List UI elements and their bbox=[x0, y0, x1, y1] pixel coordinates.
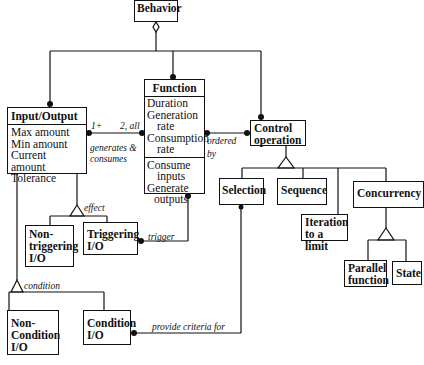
class-non-condition-io[interactable]: Non- Condition I/O bbox=[7, 310, 59, 355]
class-input-output[interactable]: Input/Output Max amount Min amount Curre… bbox=[7, 107, 87, 174]
class-condition-io[interactable]: Condition I/O bbox=[83, 310, 131, 345]
attribute: Consumption bbox=[147, 133, 202, 145]
assoc-label-provide-criteria: provide criteria for bbox=[152, 322, 225, 332]
class-name: Non- bbox=[11, 317, 55, 329]
class-name: Function bbox=[145, 80, 204, 96]
multiplicity-function: 2, all bbox=[120, 121, 140, 131]
class-name: Condition bbox=[87, 317, 127, 329]
class-name: to a limit bbox=[305, 228, 344, 252]
attribute: Current amount bbox=[11, 150, 83, 173]
class-function[interactable]: Function Duration Generation rate Consum… bbox=[144, 79, 205, 194]
class-name: Behavior bbox=[137, 2, 175, 14]
class-non-triggering-io[interactable]: Non- triggering I/O bbox=[25, 225, 74, 267]
class-name: Condition bbox=[11, 329, 55, 341]
class-selection[interactable]: Selection bbox=[219, 178, 264, 205]
attribute: Duration bbox=[147, 98, 202, 110]
assoc-label-effect: effect bbox=[84, 203, 105, 213]
assoc-label-condition: condition bbox=[24, 281, 60, 291]
attribute: Generation bbox=[147, 110, 202, 122]
assoc-label-by: by bbox=[207, 149, 216, 159]
class-name: Sequence bbox=[281, 184, 323, 196]
class-name: Input/Output bbox=[8, 108, 86, 124]
class-name: Iteration bbox=[305, 216, 344, 228]
class-name: function bbox=[348, 274, 383, 286]
class-name: I/O bbox=[29, 252, 70, 264]
attribute: Max amount bbox=[11, 127, 83, 139]
assoc-label-consumes: consumes bbox=[90, 154, 127, 164]
class-name: Selection bbox=[222, 184, 261, 196]
class-name: Concurrency bbox=[357, 187, 420, 199]
class-name: Control bbox=[254, 122, 302, 134]
class-name: Non- bbox=[29, 228, 70, 240]
class-state[interactable]: State bbox=[392, 261, 422, 285]
class-control-operation[interactable]: Control operation bbox=[250, 120, 306, 146]
class-name: Triggering bbox=[87, 228, 134, 240]
class-concurrency[interactable]: Concurrency bbox=[353, 181, 424, 208]
class-sequence[interactable]: Sequence bbox=[277, 178, 327, 205]
attribute: rate bbox=[147, 144, 202, 156]
class-parallel-function[interactable]: Parallel function bbox=[344, 260, 387, 287]
class-triggering-io[interactable]: Triggering I/O bbox=[83, 222, 138, 255]
assoc-label-generates: generates & bbox=[90, 143, 137, 153]
class-name: operation bbox=[254, 134, 302, 146]
generalization-triangle-icon bbox=[278, 157, 294, 168]
class-behavior[interactable]: Behavior bbox=[134, 0, 178, 22]
class-name: State bbox=[396, 267, 418, 279]
multiplicity-io: 1+ bbox=[91, 121, 102, 131]
class-name: I/O bbox=[87, 329, 127, 341]
class-name: I/O bbox=[87, 240, 134, 252]
class-iteration[interactable]: Iteration to a limit bbox=[301, 214, 348, 241]
class-name: triggering bbox=[29, 240, 70, 252]
attribute: Tolerance bbox=[11, 173, 83, 185]
class-name: I/O bbox=[11, 341, 55, 353]
assoc-label-trigger: trigger bbox=[148, 232, 174, 242]
diagram-canvas: Behavior Input/Output Max amount Min amo… bbox=[0, 0, 424, 365]
operation: inputs bbox=[147, 171, 202, 183]
operation: outputs bbox=[147, 194, 202, 206]
attribute: rate bbox=[147, 121, 202, 133]
class-name: Parallel bbox=[348, 262, 383, 274]
assoc-label-ordered: ordered bbox=[207, 136, 236, 146]
aggregation-diamond-icon bbox=[153, 22, 159, 32]
